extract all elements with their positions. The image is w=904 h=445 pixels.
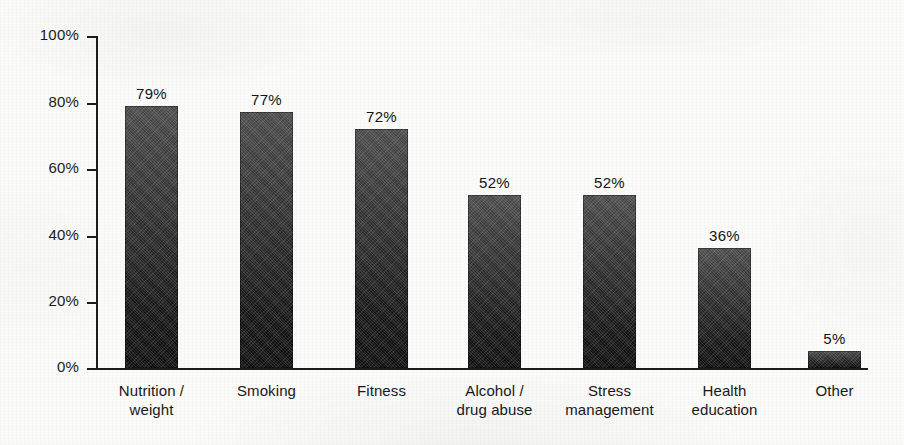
y-tick-label: 100% <box>19 26 79 43</box>
x-label-line1: Alcohol / <box>465 382 523 399</box>
y-tick-mark <box>87 368 97 370</box>
x-label-line1: Other <box>815 382 853 399</box>
x-label-line2: education <box>668 400 781 419</box>
x-label-line1: Fitness <box>357 382 406 399</box>
x-axis-category-label: Health education <box>668 381 781 419</box>
y-tick-label: 40% <box>19 226 79 243</box>
bar-value-label: 5% <box>794 330 875 347</box>
y-tick-80: 80% <box>0 103 97 105</box>
x-label-line1: Nutrition / <box>119 382 184 399</box>
bar-value-label: 52% <box>569 174 650 191</box>
x-label-line2: management <box>553 400 666 419</box>
y-tick-60: 60% <box>0 169 97 171</box>
x-axis-line <box>96 368 868 370</box>
bar-value-label: 72% <box>341 108 422 125</box>
y-tick-mark <box>87 103 97 105</box>
x-label-line1: Smoking <box>237 382 296 399</box>
y-tick-mark <box>87 236 97 238</box>
bar-value-label: 52% <box>454 174 535 191</box>
y-tick-0: 0% <box>0 368 97 370</box>
x-label-line2: weight <box>95 400 208 419</box>
x-axis-category-label: Nutrition / weight <box>95 381 208 419</box>
x-axis-category-label: Stress management <box>553 381 666 419</box>
y-tick-20: 20% <box>0 302 97 304</box>
x-label-line1: Health <box>703 382 747 399</box>
y-tick-label: 20% <box>19 292 79 309</box>
bar-value-label: 79% <box>111 85 192 102</box>
y-tick-mark <box>87 36 97 38</box>
bar-rect[interactable] <box>355 129 408 368</box>
bar-rect[interactable] <box>583 195 636 368</box>
bar-rect[interactable] <box>698 248 751 368</box>
y-tick-40: 40% <box>0 236 97 238</box>
y-tick-label: 80% <box>19 93 79 110</box>
x-axis-category-label: Other <box>778 381 891 400</box>
plot-area: 100% 80% 60% 40% 20% 0% 79% Nutrition / <box>0 0 904 445</box>
bar-chart: 100% 80% 60% 40% 20% 0% 79% Nutrition / <box>0 0 904 445</box>
bar-rect[interactable] <box>125 106 178 368</box>
y-tick-mark <box>87 302 97 304</box>
bar-rect[interactable] <box>240 112 293 368</box>
bar-rect[interactable] <box>808 351 861 368</box>
y-tick-label: 0% <box>19 358 79 375</box>
x-label-line2: drug abuse <box>438 400 551 419</box>
bar-value-label: 77% <box>226 91 307 108</box>
bar-value-label: 36% <box>684 227 765 244</box>
x-label-line1: Stress <box>588 382 631 399</box>
bar-rect[interactable] <box>468 195 521 368</box>
y-tick-label: 60% <box>19 159 79 176</box>
y-axis-line <box>96 36 98 370</box>
y-tick-mark <box>87 169 97 171</box>
x-axis-category-label: Fitness <box>325 381 438 400</box>
x-axis-category-label: Smoking <box>210 381 323 400</box>
y-tick-100: 100% <box>0 36 97 38</box>
x-axis-category-label: Alcohol / drug abuse <box>438 381 551 419</box>
